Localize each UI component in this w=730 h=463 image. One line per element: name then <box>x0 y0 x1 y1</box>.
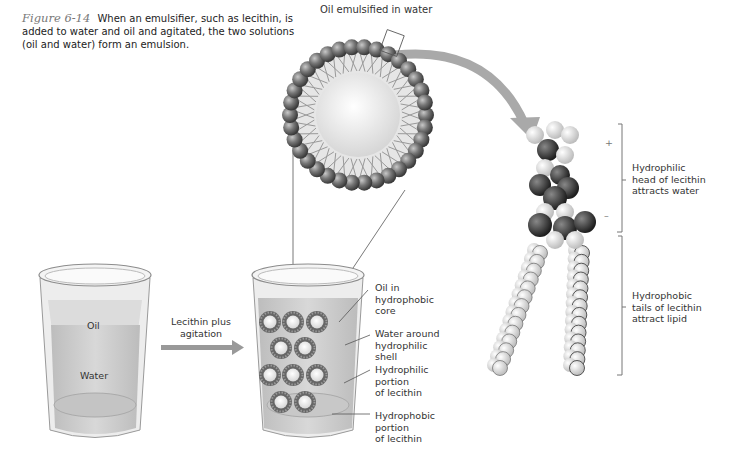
lecithin-molecule <box>487 121 596 376</box>
plus-sign: + <box>605 137 613 149</box>
callout-water-shell: Water around hydrophilic shell <box>375 328 440 363</box>
arrow-label-line2: agitation <box>171 328 231 340</box>
callout-hydrophilic-portion: Hydrophilic portion of lecithin <box>375 364 429 399</box>
process-arrow <box>161 340 244 355</box>
callout-line: shell <box>375 351 440 363</box>
callout-hydrophobic-portion: Hydrophobic portion of lecithin <box>375 410 435 445</box>
callout-oil-core: Oil in hydrophobic core <box>375 282 434 317</box>
callout-line: hydrophobic <box>375 294 434 306</box>
callout-line: hydrophilic <box>375 340 440 352</box>
hydrophobic-tail-label: Hydrophobic tails of lecithin attract li… <box>632 290 702 325</box>
oil-label: Oil <box>87 320 100 332</box>
callout-line: portion <box>375 422 435 434</box>
beaker-emulsion <box>252 264 364 438</box>
callout-line: portion <box>375 376 429 388</box>
callout-line: Hydrophobic <box>375 410 435 422</box>
hydrophilic-head-label: Hydrophilic head of lecithin attracts wa… <box>632 162 706 197</box>
figure-caption: Figure 6-14 When an emulsifier, such as … <box>22 12 302 51</box>
brackets <box>617 124 626 375</box>
label-line: attracts water <box>632 185 706 197</box>
callout-line: Water around <box>375 328 440 340</box>
minus-sign: – <box>604 210 609 222</box>
arrow-label: Lecithin plus agitation <box>171 316 231 339</box>
arrow-label-line1: Lecithin plus <box>171 316 231 328</box>
water-label: Water <box>80 370 108 382</box>
label-line: attract lipid <box>632 313 702 325</box>
callout-line: core <box>375 305 434 317</box>
label-line: tails of lecithin <box>632 302 702 314</box>
label-line: Hydrophobic <box>632 290 702 302</box>
callout-line: of lecithin <box>375 433 435 445</box>
callout-line: Oil in <box>375 282 434 294</box>
label-line: head of lecithin <box>632 174 706 186</box>
label-line: Hydrophilic <box>632 162 706 174</box>
beaker-oil-water <box>39 264 151 438</box>
callout-line: Hydrophilic <box>375 364 429 376</box>
droplet-title: Oil emulsified in water <box>320 4 432 15</box>
callout-line: of lecithin <box>375 387 429 399</box>
diagram-graphics <box>0 0 730 463</box>
figure-number: Figure 6-14 <box>22 11 90 25</box>
